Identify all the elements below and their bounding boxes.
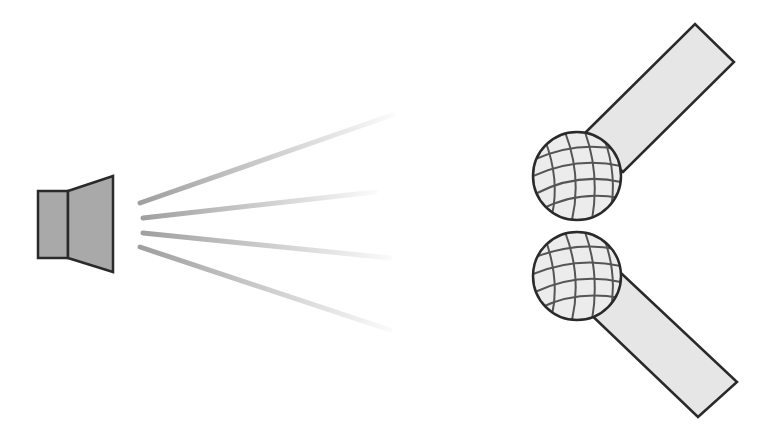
sound-wave-line xyxy=(140,115,392,203)
speaker-magnet xyxy=(38,191,68,258)
sound-waves xyxy=(140,115,392,330)
sound-wave-line xyxy=(143,233,390,258)
speaker-cone xyxy=(68,176,113,272)
sound-wave-line xyxy=(143,192,375,218)
microphone-head xyxy=(533,132,621,220)
speaker-icon xyxy=(38,176,113,272)
diagram-canvas: Speaker emitting sound toward two microp… xyxy=(0,0,774,437)
microphone-bottom-icon xyxy=(533,232,737,417)
microphone-top-icon xyxy=(533,24,734,220)
sound-wave-line xyxy=(140,247,390,330)
microphone-head xyxy=(533,232,621,320)
